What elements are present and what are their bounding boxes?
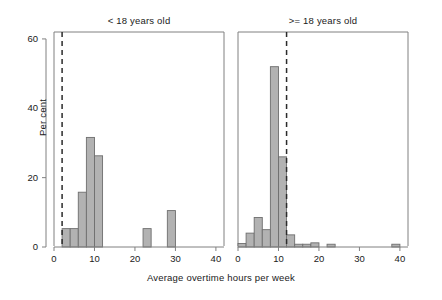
x-axis-tick-label: 0 bbox=[228, 254, 248, 264]
x-axis-tick-label: 20 bbox=[125, 254, 145, 264]
x-axis-title: Average overtime hours per week bbox=[0, 272, 442, 283]
histogram-bar bbox=[238, 244, 246, 247]
histogram-bar bbox=[78, 192, 86, 247]
x-axis-tick-label: 30 bbox=[165, 254, 185, 264]
panel-title: < 18 years old bbox=[54, 15, 224, 26]
histogram-bar bbox=[94, 156, 102, 247]
histogram-bar bbox=[143, 229, 151, 247]
x-axis-tick-label: 10 bbox=[268, 254, 288, 264]
histogram-bar bbox=[246, 233, 254, 247]
y-axis-tick-label: 60 bbox=[14, 34, 38, 44]
x-axis-tick-label: 40 bbox=[206, 254, 226, 264]
histogram-bar bbox=[287, 235, 295, 247]
chart-figure: 0204060Per centAverage overtime hours pe… bbox=[0, 0, 442, 300]
histogram-bar bbox=[254, 218, 262, 247]
histogram-bar bbox=[278, 157, 286, 247]
histogram-bar bbox=[167, 211, 175, 247]
histogram-bar bbox=[86, 137, 94, 247]
histogram-bar bbox=[62, 229, 70, 247]
x-axis-tick-label: 40 bbox=[390, 254, 410, 264]
histogram-bar bbox=[70, 229, 78, 247]
x-axis-tick-label: 0 bbox=[44, 254, 64, 264]
histogram-bar bbox=[262, 230, 270, 247]
panel-frame bbox=[238, 32, 408, 246]
bar-group bbox=[62, 137, 175, 247]
y-axis-tick-label: 0 bbox=[14, 242, 38, 252]
x-axis-tick-label: 10 bbox=[84, 254, 104, 264]
panel-title: >= 18 years old bbox=[238, 15, 408, 26]
x-axis-tick-label: 20 bbox=[309, 254, 329, 264]
y-axis-tick-label: 20 bbox=[14, 173, 38, 183]
bar-group bbox=[238, 67, 400, 247]
y-axis-tick-label: 40 bbox=[14, 103, 38, 113]
histogram-bar bbox=[311, 243, 319, 247]
x-axis-tick-label: 30 bbox=[349, 254, 369, 264]
histogram-bar bbox=[270, 67, 278, 247]
y-axis-title: Per cent bbox=[37, 78, 48, 158]
